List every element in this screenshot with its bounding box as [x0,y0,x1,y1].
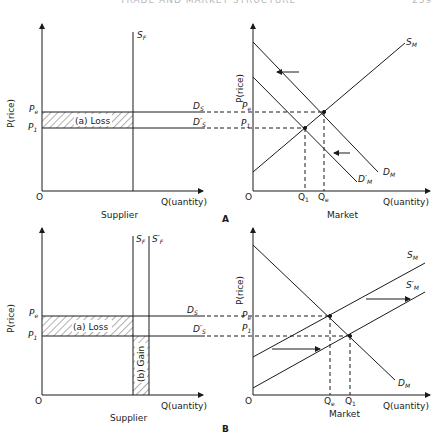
sf-label: SF [137,30,147,41]
y-axis-label: P(rice) [235,74,245,103]
sm-label: SM [407,250,419,261]
market-caption: Market [327,210,358,220]
supplier-caption: Supplier [101,210,138,220]
origin-label: O [35,396,42,406]
dm-prime-label: D′M [358,174,373,185]
dm-label: DM [398,378,411,389]
x-axis-label: Q(uantity) [161,401,207,411]
x-axis-label: Q(uantity) [383,197,429,207]
loss-label: (a) Loss [75,116,110,126]
loss-label: (a) Loss [73,322,108,332]
pe-label: Pe [242,310,251,321]
demand-curve-dm [253,42,378,172]
pe-label: Pe [29,308,38,319]
ds-label: DS [193,101,204,112]
equilibrium-point-e [322,110,325,113]
p1-label: P1 [242,323,251,334]
panel-a-market [220,24,430,191]
pe-label: Pe [29,104,38,115]
sm-label: SM [406,37,418,48]
figure: P(rice) Pe P1 O Q(uantity) Supplier SF D… [0,0,441,437]
x-axis-label: Q(uantity) [383,401,429,411]
ds-label: DS [187,305,198,316]
y-axis-label: P(rice) [6,304,16,333]
supplier-caption: Supplier [110,413,147,423]
y-axis-label: P(rice) [6,99,16,128]
sm-prime-label: S′M [406,280,420,291]
qe-label: Qe [324,396,335,407]
q1-label: Q1 [345,396,356,407]
panel-a-label: A [222,214,229,224]
qe-label: Qe [318,192,329,203]
sf-prime-label: S′F [152,234,164,245]
pe-label: Pe [242,101,251,112]
p1-label: P1 [28,122,37,133]
equilibrium-point-e [328,314,331,317]
x-axis-label: Q(uantity) [161,197,207,207]
ds-prime-label: D′S [193,324,206,335]
origin-label: O [36,192,43,202]
origin-label: O [245,192,252,202]
dm-label: DM [383,167,396,178]
equilibrium-point-1 [303,126,306,129]
supply-curve-sm-prime [253,292,425,388]
panel-b-label: B [222,424,229,434]
q1-label: Q1 [298,192,309,203]
p1-label: P1 [241,118,250,129]
market-caption: Market [329,409,360,419]
demand-curve-dm [253,245,395,380]
supply-curve-sm [253,263,425,357]
sf-label: SF [136,234,146,245]
panel-b-market [220,228,430,395]
p1-label: P1 [28,330,37,341]
y-axis-label: P(rice) [235,276,245,305]
equilibrium-point-1 [348,334,351,337]
gain-label: (b) Gain [136,346,146,382]
supply-curve-sm [253,43,405,172]
origin-label: O [245,396,252,406]
ds-prime-label: D′S [193,117,206,128]
